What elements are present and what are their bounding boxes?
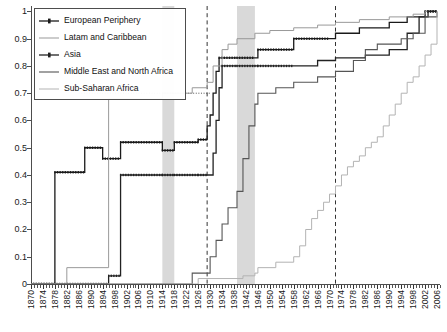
series-marker: [170, 149, 171, 151]
series-marker: [198, 138, 199, 140]
x-axis-tick-label: 1962: [301, 290, 311, 309]
x-axis-tick-label: 1930: [205, 290, 215, 309]
series-marker: [125, 174, 126, 176]
x-axis-tick-mark-minor: [243, 285, 244, 288]
x-axis-tick-mark-minor: [201, 285, 202, 288]
x-axis-tick-mark-minor: [168, 285, 169, 288]
x-axis-tick-mark-minor: [416, 285, 417, 288]
x-axis-tick-mark-minor: [189, 285, 190, 288]
series-marker: [176, 174, 177, 176]
legend-item-latam-and-caribbean[interactable]: Latam and Caribbean: [38, 29, 181, 46]
x-axis-tick-label: 1902: [122, 290, 132, 309]
x-axis-tick-mark-minor: [40, 285, 41, 288]
x-axis-tick-mark-minor: [383, 285, 384, 288]
series-marker: [146, 141, 147, 143]
x-axis-tick-mark-major: [234, 285, 235, 289]
series-marker: [247, 57, 248, 59]
x-axis-tick-mark-major: [270, 285, 271, 289]
x-axis-tick-mark-major: [341, 285, 342, 289]
series-marker: [128, 174, 129, 176]
x-axis-tick-mark-minor: [297, 285, 298, 288]
x-axis-tick-mark-minor: [240, 285, 241, 288]
x-axis-tick-mark-minor: [34, 285, 35, 288]
x-axis-tick-label: 1922: [181, 290, 191, 309]
series-marker: [149, 141, 150, 143]
x-axis-tick-mark-minor: [285, 285, 286, 288]
series-marker: [268, 48, 269, 50]
x-axis-tick-mark-major: [210, 285, 211, 289]
series-marker: [54, 171, 55, 173]
series-marker: [92, 147, 93, 149]
series-marker: [203, 174, 204, 176]
series-marker: [179, 174, 180, 176]
series-marker: [244, 57, 245, 59]
x-axis-tick-mark-minor: [434, 285, 435, 288]
series-marker: [283, 65, 284, 67]
x-axis-tick-mark-major: [365, 285, 366, 289]
x-axis-tick-mark-minor: [37, 285, 38, 288]
x-axis-tick-mark-minor: [73, 285, 74, 288]
series-marker: [57, 171, 58, 173]
series-marker: [105, 157, 106, 159]
x-axis-tick-mark-minor: [171, 285, 172, 288]
series-marker: [229, 65, 230, 67]
series-marker: [314, 38, 315, 40]
series-marker: [224, 65, 225, 67]
x-axis-tick-mark-minor: [359, 285, 360, 288]
legend-item-asia[interactable]: Asia: [38, 46, 181, 63]
series-marker: [311, 38, 312, 40]
x-axis-tick-mark-minor: [350, 285, 351, 288]
series-marker: [205, 174, 206, 176]
series-marker: [181, 141, 182, 143]
series-marker: [59, 171, 60, 173]
series-marker: [143, 174, 144, 176]
x-axis-tick-label: 1914: [157, 290, 167, 309]
x-axis-tick-label: 1990: [384, 290, 394, 309]
x-axis-tick-label: 1894: [98, 290, 108, 309]
series-marker: [239, 57, 240, 59]
x-axis-tick-mark-minor: [309, 285, 310, 288]
series-marker: [112, 157, 113, 159]
series-marker: [87, 147, 88, 149]
x-axis-tick-label: 1910: [145, 290, 155, 309]
legend-item-middle-east-and-north-africa[interactable]: Middle East and North Africa: [38, 63, 181, 80]
series-marker: [192, 141, 193, 143]
y-axis-tick-marks: [0, 6, 31, 284]
series-marker: [288, 65, 289, 67]
series-marker: [187, 174, 188, 176]
legend-item-european-periphery[interactable]: European Periphery: [38, 12, 181, 29]
x-axis-tick-mark-minor: [273, 285, 274, 288]
x-axis-tick-mark-minor: [374, 285, 375, 288]
x-axis-tick-mark-minor: [356, 285, 357, 288]
series-marker: [291, 48, 292, 50]
x-axis-tick-mark-minor: [144, 285, 145, 288]
x-axis-tick-mark-major: [115, 285, 116, 289]
series-marker: [141, 174, 142, 176]
x-axis-tick-label: 1946: [253, 290, 263, 309]
x-axis-tick-mark-minor: [118, 285, 119, 288]
x-axis-tick-label: 1994: [396, 290, 406, 309]
series-marker: [102, 157, 103, 159]
x-axis-tick-mark-minor: [312, 285, 313, 288]
x-axis-tick-mark-minor: [419, 285, 420, 288]
x-axis-tick-mark-minor: [159, 285, 160, 288]
x-axis-tick-mark-minor: [380, 285, 381, 288]
series-marker: [89, 147, 90, 149]
x-axis-tick-label: 1974: [336, 290, 346, 309]
x-axis-tick-mark-minor: [362, 285, 363, 288]
x-axis-tick-label: 1874: [38, 290, 48, 309]
x-axis-tick-mark-minor: [237, 285, 238, 288]
series-marker: [159, 141, 160, 143]
x-axis-tick-mark-minor: [321, 285, 322, 288]
legend-item-sub-saharan-africa[interactable]: Sub-Saharan Africa: [38, 80, 181, 97]
series-marker: [288, 48, 289, 50]
series-marker: [138, 174, 139, 176]
series-marker: [317, 38, 318, 40]
x-axis-tick-mark-minor: [133, 285, 134, 288]
series-marker: [176, 141, 177, 143]
x-axis-tick-mark-minor: [261, 285, 262, 288]
line-marker-swatch: [38, 15, 60, 27]
series-marker: [164, 174, 165, 176]
x-axis-tick-mark-minor: [70, 285, 71, 288]
x-axis-tick-mark-minor: [82, 285, 83, 288]
